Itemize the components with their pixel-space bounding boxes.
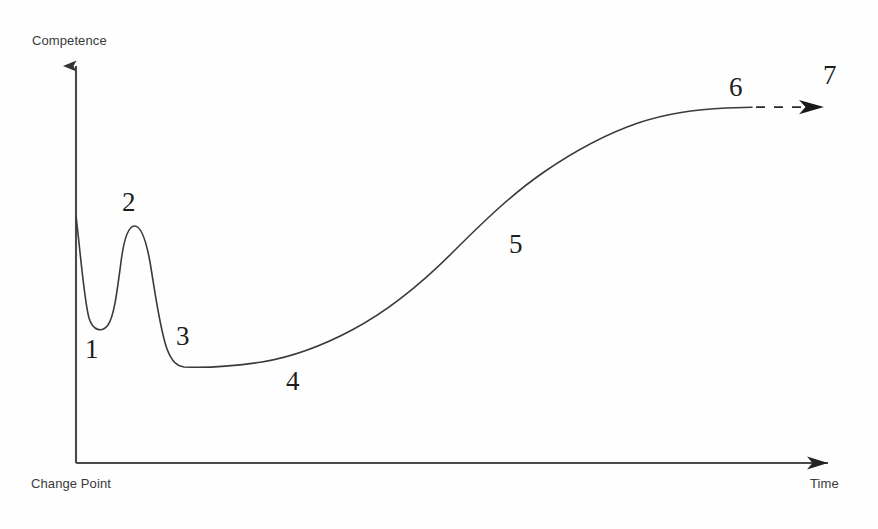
stage-label-6: 6 xyxy=(729,74,743,101)
competence-change-curve-figure: Competence Change Point Time 1 2 3 4 5 6… xyxy=(0,0,878,529)
y-axis-label: Competence xyxy=(32,33,107,48)
x-axis-label: Time xyxy=(810,476,839,491)
stage-label-3: 3 xyxy=(176,323,190,350)
stage-label-1: 1 xyxy=(85,336,99,363)
stage-label-4: 4 xyxy=(286,368,300,395)
stage-label-2: 2 xyxy=(122,189,136,216)
origin-label-change-point: Change Point xyxy=(31,476,111,491)
curve-plot-svg xyxy=(0,0,878,529)
stage-label-5: 5 xyxy=(509,231,523,258)
stage-label-7: 7 xyxy=(823,62,837,89)
